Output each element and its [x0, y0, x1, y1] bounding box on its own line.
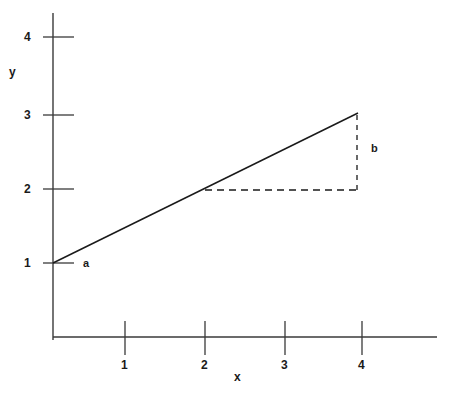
plot-area: [0, 0, 450, 401]
y-tick-label-1: 1: [24, 257, 31, 269]
data-line: [53, 113, 358, 263]
x-tick-label-2: 2: [201, 359, 208, 371]
rise-annotation-label: b: [371, 143, 378, 154]
y-tick-label-4: 4: [24, 31, 31, 43]
line-graph-figure: y x 4 3 2 1 1 2 3 4 a b: [0, 0, 450, 401]
y-axis-label: y: [9, 66, 16, 78]
x-tick-label-3: 3: [281, 359, 288, 371]
y-tick-label-2: 2: [24, 183, 31, 195]
x-tick-label-1: 1: [121, 359, 128, 371]
x-tick-label-4: 4: [358, 359, 365, 371]
y-tick-label-3: 3: [24, 109, 31, 121]
x-axis-label: x: [234, 371, 241, 383]
intercept-annotation-label: a: [83, 258, 89, 269]
